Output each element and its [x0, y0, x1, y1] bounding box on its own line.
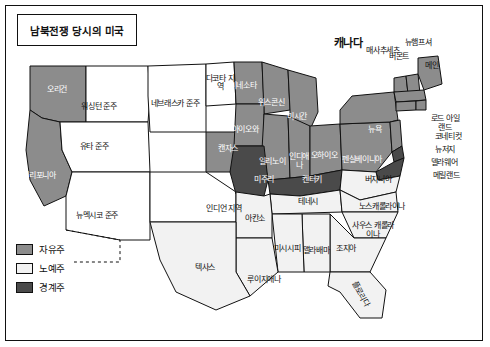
region-ohio[interactable]	[310, 124, 342, 176]
legend-item-slave: 노예주	[16, 261, 65, 275]
region-florida[interactable]	[328, 272, 386, 318]
region-minnesota[interactable]	[234, 62, 264, 104]
region-new-york[interactable]	[340, 92, 398, 124]
region-wisconsin[interactable]	[262, 62, 290, 114]
legend-item-free: 자유주	[16, 242, 65, 256]
legend-swatch-slave	[16, 263, 33, 274]
map-title: 남북전쟁 당시의 미국	[30, 23, 124, 38]
legend-swatch-free	[16, 244, 33, 255]
region-oregon[interactable]	[30, 66, 86, 122]
legend: 자유주 노예주 경계주	[16, 242, 65, 299]
legend-label-border: 경계주	[39, 280, 65, 294]
region-connecticut[interactable]	[396, 101, 416, 111]
region-alabama[interactable]	[302, 214, 330, 272]
region-indiana[interactable]	[288, 116, 310, 178]
region-utah-territory[interactable]	[60, 122, 150, 172]
region-rhode-island[interactable]	[416, 100, 426, 110]
legend-label-free: 자유주	[39, 242, 65, 256]
region-new-mexico-territory[interactable]	[66, 172, 150, 240]
region-maine[interactable]	[418, 56, 442, 90]
map-svg	[0, 0, 490, 347]
region-pennsylvania[interactable]	[340, 122, 392, 172]
region-indian-territory[interactable]	[150, 172, 236, 222]
region-nebraska-territory[interactable]	[148, 64, 206, 132]
region-dakota-territory[interactable]	[206, 62, 236, 106]
map-screenshot: 남북전쟁 당시의 미국 자유주 노예주 경계주 캐나다 오리건 워싱턴 준주 유…	[0, 0, 490, 347]
legend-label-slave: 노예주	[39, 261, 65, 275]
legend-swatch-border	[16, 282, 33, 293]
map-title-box: 남북전쟁 당시의 미국	[17, 14, 137, 46]
region-texas[interactable]	[150, 222, 250, 310]
region-arkansas[interactable]	[236, 192, 272, 238]
legend-item-border: 경계주	[16, 280, 65, 294]
region-washington-territory[interactable]	[86, 66, 150, 122]
region-iowa[interactable]	[234, 104, 264, 146]
region-missouri[interactable]	[230, 146, 268, 196]
